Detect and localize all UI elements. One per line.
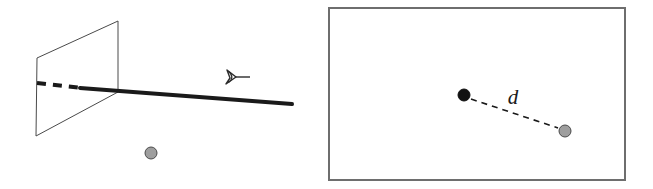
distance-label: d: [508, 85, 519, 109]
panel-border: [329, 8, 625, 180]
camera-viewpoint-icon: [226, 70, 250, 84]
image-plane: [36, 21, 118, 136]
figure-root: d: [0, 0, 653, 189]
visible-ray-segment: [80, 88, 292, 104]
3d-scene-panel: [0, 0, 326, 189]
image-plane-panel: d: [326, 0, 653, 189]
occluded-ray-segment: [37, 83, 82, 88]
image-plane-svg: d: [326, 0, 653, 189]
gray-scene-point: [145, 147, 157, 159]
gray-projected-point: [559, 125, 571, 137]
black-projected-point: [458, 89, 470, 101]
3d-scene-svg: [0, 0, 326, 189]
